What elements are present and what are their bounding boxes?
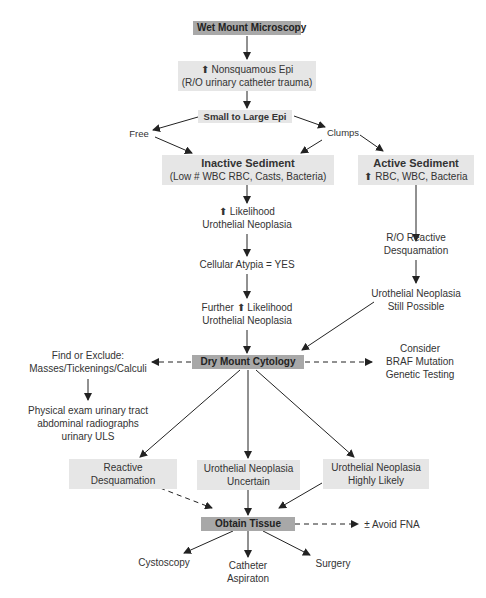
edge-small-free <box>153 117 198 130</box>
node-cystoscopy: Cystoscopy <box>134 556 194 569</box>
node-text: ⬆ Nonsquamous Epi <box>178 63 316 76</box>
node-text: Reactive <box>69 461 177 474</box>
node-text: ± Avoid FNA <box>360 518 424 531</box>
node-dry-mount: Dry Mount Cytology <box>192 355 304 369</box>
node-text: Aspiraton <box>218 572 278 585</box>
node-catheter: Catheter Aspiraton <box>218 559 278 585</box>
node-still-possible: Urothelial Neoplasia Still Possible <box>366 287 466 313</box>
node-text: Catheter <box>218 559 278 572</box>
node-find-exclude: Find or Exclude: Masses/Tickenings/Calcu… <box>20 349 156 375</box>
node-text: urinary ULS <box>16 430 160 443</box>
node-text: Wet Mount Microscopy <box>197 21 297 35</box>
node-text: ⬆ Likelihood <box>197 205 297 218</box>
node-braf: Consider BRAF Mutation Genetic Testing <box>378 342 462 381</box>
node-further: Further ⬆ Likelihood Urothelial Neoplasi… <box>192 301 302 327</box>
node-obtain-tissue: Obtain Tissue <box>201 517 295 531</box>
node-text: Still Possible <box>366 300 466 313</box>
node-text: Find or Exclude: <box>20 349 156 362</box>
node-text: Clumps <box>325 126 361 139</box>
node-surgery: Surgery <box>310 557 356 570</box>
node-text: abdominal radiographs <box>16 417 160 430</box>
node-atypia: Cellular Atypia = YES <box>192 258 302 271</box>
node-text: Physical exam urinary tract <box>16 404 160 417</box>
node-wet-mount: Wet Mount Microscopy <box>193 21 301 35</box>
node-text: Free <box>126 127 152 140</box>
node-title: Active Sediment <box>358 157 474 170</box>
node-text: Cystoscopy <box>134 556 194 569</box>
node-text: R/O Reactive <box>370 231 462 244</box>
edge-free-inactive <box>155 137 192 153</box>
node-text: (R/O urinary catheter trauma) <box>178 76 316 89</box>
node-text: Obtain Tissue <box>205 517 291 531</box>
node-text: Highly Likely <box>323 474 429 487</box>
edge-small-clumps <box>294 116 325 127</box>
node-inactive-sediment: Inactive Sediment (Low # WBC RBC, Casts,… <box>162 155 334 185</box>
node-reactive-desquamation: Reactive Desquamation <box>69 459 177 489</box>
node-text: Cellular Atypia = YES <box>192 258 302 271</box>
node-text: (Low # WBC RBC, Casts, Bacteria) <box>162 170 334 183</box>
node-text: Small to Large Epi <box>198 110 292 123</box>
node-clumps: Clumps <box>325 126 361 139</box>
node-text: Masses/Tickenings/Calculi <box>20 362 156 375</box>
node-uncertain: Urothelial Neoplasia Uncertain <box>197 460 300 490</box>
node-free: Free <box>126 127 152 140</box>
edge-still-dry <box>302 302 374 350</box>
node-small-large: Small to Large Epi <box>198 110 292 123</box>
node-text: Urothelial Neoplasia <box>192 314 302 327</box>
node-likelihood: ⬆ Likelihood Urothelial Neoplasia <box>197 205 297 231</box>
node-active-sediment: Active Sediment ⬆ RBC, WBC, Bacteria <box>358 155 474 185</box>
node-avoid-fna: ± Avoid FNA <box>360 518 424 531</box>
node-text: Urothelial Neoplasia <box>323 461 429 474</box>
node-text: Genetic Testing <box>378 368 462 381</box>
edge-clumps-active <box>360 135 383 151</box>
node-text: Urothelial Neoplasia <box>197 218 297 231</box>
edge-reactive-obtain <box>160 488 212 508</box>
node-text: Urothelial Neoplasia <box>197 462 300 475</box>
node-title: Inactive Sediment <box>162 157 334 170</box>
node-text: BRAF Mutation <box>378 355 462 368</box>
edge-dry-highly <box>256 370 354 457</box>
node-text: ⬆ RBC, WBC, Bacteria <box>358 170 474 183</box>
node-physical-exam: Physical exam urinary tract abdominal ra… <box>16 404 160 443</box>
edge-clumps-inactive <box>301 140 322 153</box>
node-text: Surgery <box>310 557 356 570</box>
node-nonsquamous: ⬆ Nonsquamous Epi (R/O urinary catheter … <box>178 61 316 91</box>
node-text: Desquamation <box>370 244 462 257</box>
node-text: Consider <box>378 342 462 355</box>
edge-obtain-cysto <box>184 531 233 553</box>
node-highly-likely: Urothelial Neoplasia Highly Likely <box>323 459 429 489</box>
edge-obtain-surgery <box>263 531 310 555</box>
node-text: Desquamation <box>69 474 177 487</box>
node-ro-reactive: R/O Reactive Desquamation <box>370 231 462 257</box>
node-text: Uncertain <box>197 475 300 488</box>
node-text: Further ⬆ Likelihood <box>192 301 302 314</box>
node-text: Urothelial Neoplasia <box>366 287 466 300</box>
node-text: Dry Mount Cytology <box>196 355 300 369</box>
